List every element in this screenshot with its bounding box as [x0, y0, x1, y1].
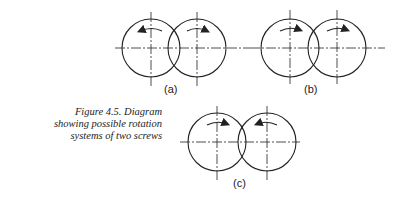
figure-caption: Figure 4.5. Diagram showing possible rot…	[22, 106, 162, 142]
rotation-diagrams: (a) (b) (c)	[0, 0, 403, 197]
caption-line-3: systems of two screws	[22, 130, 162, 142]
label-c: (c)	[233, 177, 246, 189]
label-b: (b)	[304, 83, 317, 95]
diagram-c	[180, 106, 300, 180]
caption-line-1: Figure 4.5. Diagram	[22, 106, 162, 118]
caption-line-2: showing possible rotation	[22, 118, 162, 130]
label-a: (a)	[164, 83, 177, 95]
diagram-b	[250, 10, 385, 86]
diagram-a	[115, 12, 250, 86]
